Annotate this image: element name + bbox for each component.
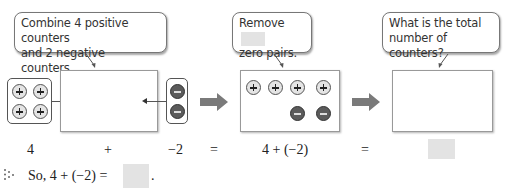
zero-pairs-box — [240, 70, 340, 132]
bubble-text-line1: Remove — [239, 16, 305, 46]
positive-counter — [316, 80, 331, 95]
positive-counter — [290, 80, 305, 95]
leader-line — [146, 101, 166, 102]
speech-bubble-remove: Remove zero pairs. — [232, 12, 312, 53]
process-arrow-icon — [352, 93, 381, 111]
equals-sign: = — [210, 142, 218, 158]
answer-blank — [241, 32, 265, 46]
process-arrow-icon — [200, 93, 229, 111]
positive-counter — [268, 80, 283, 95]
period: . — [151, 168, 155, 184]
negative-counter — [170, 84, 185, 99]
negative-counter — [170, 104, 185, 119]
speech-bubble-total: What is the total number of counters? — [382, 12, 500, 53]
equals-sign: = — [361, 142, 369, 158]
expression: 4 + (−2) — [262, 142, 308, 158]
bubble-text-line1: What is the total — [389, 16, 493, 31]
positive-counter-group — [7, 78, 52, 124]
integer-addition-diagram: Combine 4 positive counters and 2 negati… — [0, 0, 506, 190]
positive-counter — [33, 104, 48, 119]
plus-sign: + — [104, 142, 112, 158]
bubble-pointer-arrow-icon — [272, 53, 286, 69]
answer-blank — [428, 139, 455, 159]
arrowhead-left-icon — [142, 98, 147, 104]
positive-counter — [12, 84, 27, 99]
term-negative-two: −2 — [168, 142, 183, 158]
conclusion-text: So, 4 + (−2) = — [28, 168, 107, 184]
negative-counter — [290, 106, 305, 121]
positive-counter — [246, 80, 261, 95]
negative-counter — [316, 106, 331, 121]
bubble-text-line1: Combine 4 positive counters — [21, 16, 160, 46]
positive-counter — [12, 104, 27, 119]
dots-icon — [2, 168, 16, 182]
positive-counter — [33, 84, 48, 99]
term-positive-four: 4 — [27, 142, 34, 158]
bubble-pointer-arrow-icon — [436, 53, 450, 69]
speech-bubble-combine: Combine 4 positive counters and 2 negati… — [14, 12, 167, 53]
result-box — [392, 70, 493, 132]
negative-counter-group — [166, 78, 188, 124]
bubble-pointer-arrow-icon — [84, 53, 98, 69]
answer-blank — [123, 164, 149, 188]
